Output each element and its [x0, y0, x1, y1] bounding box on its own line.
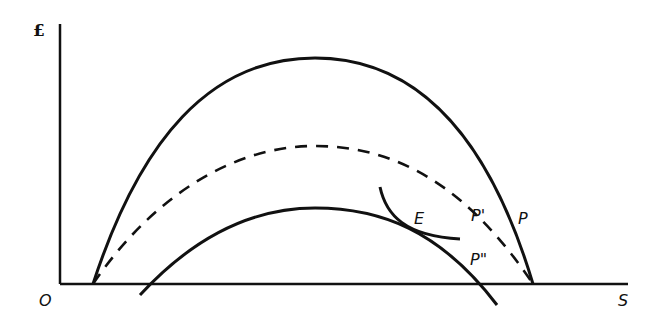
- x-axis-label: S: [618, 291, 628, 310]
- curve-p-double-prime-label: P": [470, 250, 487, 269]
- curve-p-double-prime: [140, 208, 497, 305]
- curve-p: [93, 58, 533, 284]
- y-axis-label: £: [33, 20, 45, 40]
- point-e-label: E: [414, 209, 425, 228]
- origin-label: O: [39, 291, 52, 310]
- curve-p-prime-label: P': [471, 206, 485, 225]
- curve-p-label: P: [518, 209, 528, 228]
- curve-p-prime: [93, 146, 533, 284]
- diagram-canvas: £ O S E P' P P": [0, 0, 655, 331]
